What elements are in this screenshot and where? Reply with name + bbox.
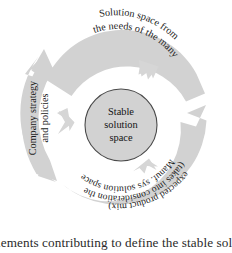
figure-caption-text: elements contributing to define the stab… (0, 232, 232, 253)
ring-label-manuf-sys: Manuf. sys solution space (takes into co… (78, 158, 192, 213)
figure-caption: elements contributing to define the stab… (0, 232, 232, 253)
ring-label-company-strategy-line-2: and policies (39, 93, 50, 142)
center-label-line-2: solution (104, 119, 138, 130)
cycle-diagram: Stable solution space Solution space fro… (0, 0, 232, 232)
center-label-line-1: Stable (108, 106, 134, 117)
ring-label-company-strategy-line-1: Company strategy (27, 80, 38, 155)
center-label-line-3: space (109, 132, 132, 143)
inward-arrow-bottom (132, 159, 158, 174)
inward-arrow-left (57, 108, 75, 134)
